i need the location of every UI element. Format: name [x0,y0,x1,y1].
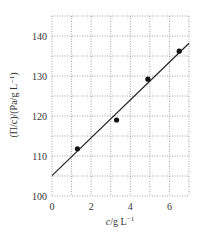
y-axis-ticks: 100110120130140 [32,31,47,202]
data-point [114,117,119,122]
y-tick-label: 130 [32,71,47,82]
y-tick-label: 100 [32,191,47,202]
data-point [177,49,182,54]
x-tick-label: 2 [89,201,94,212]
data-point [145,77,150,82]
grid-lines [52,16,189,196]
y-tick-label: 140 [32,31,47,42]
x-axis-ticks: 0246 [50,201,172,212]
y-tick-label: 120 [32,111,47,122]
x-tick-label: 0 [50,201,55,212]
x-tick-label: 6 [167,201,172,212]
y-axis-label: (Π/c)/(Pa/g L⁻¹) [8,72,20,137]
chart: 100110120130140 0246 c/g L−1 (Π/c)/(Pa/g… [0,0,198,238]
x-axis-label: c/g L−1 [106,215,135,227]
y-tick-label: 110 [32,151,47,162]
data-point [75,146,80,151]
x-tick-label: 4 [128,201,133,212]
